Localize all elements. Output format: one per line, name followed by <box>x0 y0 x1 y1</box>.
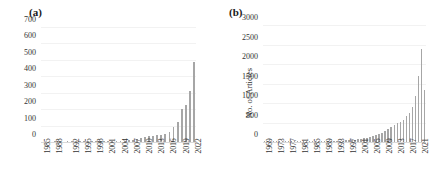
figure-two-panel-bar-charts: (a) 0100200300400500600700 1985198819921… <box>0 0 436 186</box>
panel-b-bar-series <box>263 26 426 142</box>
x-tick-slot <box>423 143 426 185</box>
y-axis-tick-label: 2000 <box>242 52 258 61</box>
y-axis-tick-label: 300 <box>24 80 36 89</box>
y-axis-tick-label: 500 <box>24 47 36 56</box>
panel-a-x-axis: 1985198819921995199820012004200720102013… <box>41 143 196 185</box>
panel-a-bar-series <box>41 28 196 142</box>
bar <box>421 49 422 142</box>
y-axis-tick-label: 1000 <box>242 91 258 100</box>
panel-b-x-axis: 1969197319771981198519891993199720012005… <box>263 143 426 185</box>
y-axis-tick-label: 1500 <box>242 71 258 80</box>
y-axis-tick-label: 600 <box>24 31 36 40</box>
bar <box>418 76 419 142</box>
bar <box>412 107 413 142</box>
bar-slot <box>423 26 426 142</box>
y-axis-tick-label: 200 <box>24 97 36 106</box>
y-axis-tick-label: 100 <box>24 113 36 122</box>
bar <box>189 91 191 142</box>
x-tick-slot: 2022 <box>192 143 196 185</box>
y-axis-tick-label: 500 <box>246 110 258 119</box>
y-axis-tick-label: 2500 <box>242 32 258 41</box>
x-axis-tick-label: 2022 <box>194 138 203 153</box>
y-axis-tick-label: 3000 <box>242 13 258 22</box>
y-axis-tick-label: 0 <box>254 130 258 139</box>
panel-b-label: (b) <box>229 6 242 18</box>
bar-slot <box>192 28 196 142</box>
panel-b: (b) No. of Articles 05001000150020002500… <box>210 0 436 186</box>
bar <box>185 105 187 142</box>
bar <box>181 109 183 142</box>
panel-a-plot-area: 0100200300400500600700 19851988199219951… <box>41 28 196 143</box>
panel-a: (a) 0100200300400500600700 1985198819921… <box>0 0 210 186</box>
bar <box>415 96 416 142</box>
bar <box>424 90 425 142</box>
y-axis-tick-label: 700 <box>24 15 36 24</box>
bar <box>193 62 195 142</box>
y-axis-tick-label: 0 <box>32 130 36 139</box>
panel-b-plot-area: 050010001500200025003000 196919731977198… <box>263 26 426 143</box>
y-axis-tick-label: 400 <box>24 64 36 73</box>
